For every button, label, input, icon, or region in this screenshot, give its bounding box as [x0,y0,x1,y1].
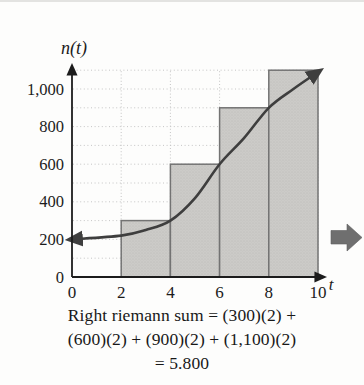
figure-caption: Right riemann sum = (300)(2) + (600)(2) … [0,303,364,375]
caption-line-3: = 5.800 [0,351,364,375]
continue-arrow-icon [331,224,362,251]
y-tick-label: 200 [39,230,64,249]
riemann-bar [220,108,269,277]
x-tick-label: 0 [68,283,77,302]
caption-line-1: Right riemann sum = (300)(2) + [0,303,364,327]
y-tick-label: 400 [39,192,64,211]
x-tick-label: 2 [117,283,126,302]
y-tick-label: 1,000 [27,80,64,99]
y-tick-label: 800 [39,117,64,136]
x-tick-label: 4 [166,283,175,302]
riemann-sum-figure: 02004006008001,0000246810n(t)t Right rie… [0,0,364,385]
caption-line-2: (600)(2) + (900)(2) + (1,100)(2) [0,327,364,351]
y-tick-label: 600 [39,155,64,174]
x-tick-label: 10 [310,283,327,302]
y-tick-label: 0 [56,268,64,287]
x-axis-title: t [329,275,335,294]
riemann-bar [170,164,219,277]
riemann-sum-chart: 02004006008001,0000246810n(t)t [0,0,364,302]
x-tick-label: 8 [265,283,274,302]
x-tick-label: 6 [215,283,224,302]
y-axis-title: n(t) [61,38,87,59]
